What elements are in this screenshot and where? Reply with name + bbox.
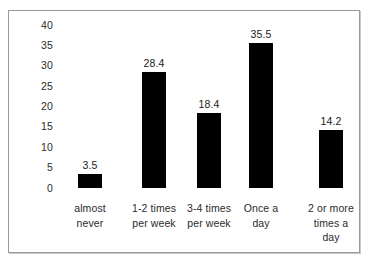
x-axis-category-line: Once a bbox=[224, 201, 298, 216]
y-axis-tick-30: 30 bbox=[17, 60, 53, 71]
bar-value-label: 18.4 bbox=[179, 98, 239, 110]
bar-1-2-times-per-week[interactable] bbox=[142, 72, 166, 188]
bar-2-or-more-times-a-day[interactable] bbox=[319, 130, 343, 188]
y-axis-tick-5: 5 bbox=[17, 162, 53, 173]
x-axis-category-line: never bbox=[53, 216, 127, 231]
x-axis-category-line: times a bbox=[294, 216, 368, 231]
bar-almost-never[interactable] bbox=[78, 174, 102, 188]
x-axis-category-label: Once a day bbox=[224, 201, 298, 230]
x-axis-category-label: almost never bbox=[53, 201, 127, 230]
x-axis-category-line: 2 or more bbox=[294, 201, 368, 216]
chart-frame: 40 35 30 25 20 15 10 5 0 3.5 28.4 18.4 3… bbox=[8, 10, 360, 253]
x-axis-category-line: day bbox=[224, 216, 298, 231]
y-axis-tick-0: 0 bbox=[17, 183, 53, 194]
bar-value-label: 3.5 bbox=[60, 159, 120, 171]
bar-value-label: 14.2 bbox=[301, 115, 361, 127]
x-axis-category-line: day bbox=[294, 230, 368, 245]
plot-area: 40 35 30 25 20 15 10 5 0 3.5 28.4 18.4 3… bbox=[9, 11, 359, 252]
y-axis-tick-25: 25 bbox=[17, 81, 53, 92]
bar-value-label: 35.5 bbox=[231, 28, 291, 40]
y-axis-tick-10: 10 bbox=[17, 142, 53, 153]
x-axis-category-line: almost bbox=[53, 201, 127, 216]
x-axis-category-label: 2 or more times a day bbox=[294, 201, 368, 245]
y-axis-tick-20: 20 bbox=[17, 101, 53, 112]
bar-once-a-day[interactable] bbox=[249, 43, 273, 188]
y-axis-tick-35: 35 bbox=[17, 40, 53, 51]
y-axis-tick-40: 40 bbox=[17, 20, 53, 31]
y-axis-tick-15: 15 bbox=[17, 121, 53, 132]
bar-value-label: 28.4 bbox=[124, 57, 184, 69]
bar-3-4-times-per-week[interactable] bbox=[197, 113, 221, 188]
